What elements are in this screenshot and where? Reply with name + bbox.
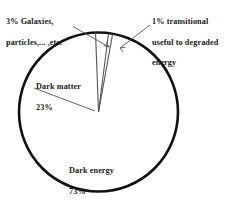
pie-chart-graphic: [0, 0, 247, 210]
pie-chart-figure: 3% Galaxies, particles,... ,etc. 1% tran…: [0, 0, 247, 210]
